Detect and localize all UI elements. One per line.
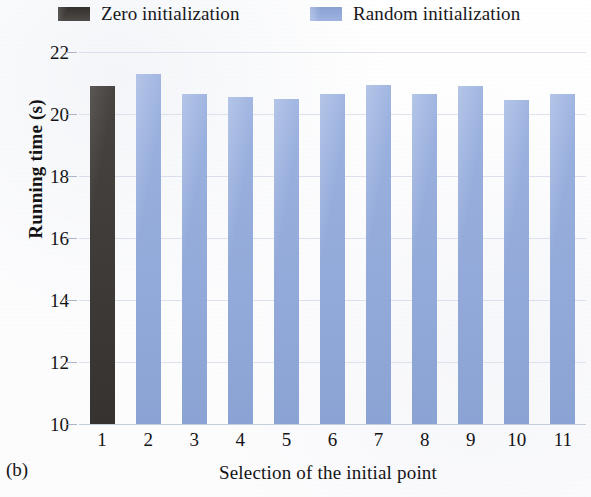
legend-swatch-zero-initialization [58,7,90,21]
bar-11 [550,94,575,424]
subfigure-caption: (b) [6,459,28,481]
plot-area: 22201816141210 1234567891011 [79,52,586,424]
x-axis-tick-label: 7 [359,430,399,449]
y-axis-tick-mark [66,300,77,301]
bar-4 [228,97,253,424]
y-axis-tick-label: 18 [23,167,69,186]
y-axis-tick-label: 10 [23,415,69,434]
y-axis-tick-mark [66,114,77,115]
y-axis-tick-mark [66,362,77,363]
x-axis-tick-label: 9 [451,430,491,449]
x-axis-tick-label: 10 [497,430,537,449]
x-axis-tick-label: 11 [543,430,583,449]
x-axis-tick-label: 6 [313,430,353,449]
legend-item-random-initialization: Random initialization [310,4,520,23]
y-axis-tick-label: 16 [23,229,69,248]
legend-item-zero-initialization: Zero initialization [58,4,240,23]
y-axis-tick-mark [66,238,77,239]
bar-series: 1234567891011 [79,52,586,424]
x-axis-tick-label: 8 [405,430,445,449]
bar-1 [90,86,115,424]
y-axis-tick-label: 12 [23,353,69,372]
bar-10 [504,100,529,424]
x-axis-tick-label: 3 [174,430,214,449]
bar-2 [136,74,161,424]
legend-label-random-initialization: Random initialization [353,4,520,23]
y-axis-tick-label: 20 [23,105,69,124]
bar-3 [182,94,207,424]
y-axis-tick-label: 14 [23,291,69,310]
x-axis-tick-label: 1 [82,430,122,449]
figure-panel: Zero initialization Random initializatio… [0,0,591,497]
legend-swatch-random-initialization [310,7,342,21]
y-axis-tick-mark [66,52,77,53]
x-axis-tick-label: 5 [266,430,306,449]
x-axis-title: Selection of the initial point [78,462,578,484]
bar-8 [412,94,437,424]
y-axis-tick-mark [66,424,77,425]
bar-9 [458,86,483,424]
legend-label-zero-initialization: Zero initialization [101,4,240,23]
y-axis-tick-label: 22 [23,43,69,62]
chart-legend: Zero initialization Random initializatio… [0,2,591,28]
y-axis-tick-mark [66,176,77,177]
bar-7 [366,85,391,424]
x-axis-tick-label: 2 [128,430,168,449]
gridline [79,424,586,425]
bar-5 [274,99,299,425]
bar-6 [320,94,345,424]
x-axis-tick-label: 4 [220,430,260,449]
